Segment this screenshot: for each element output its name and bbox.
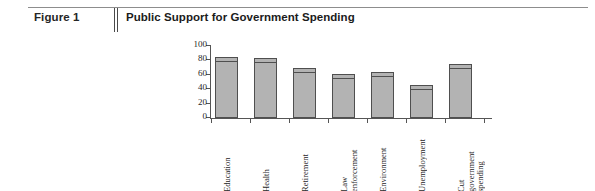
bar-cap [293,72,316,73]
x-tick-mark [367,119,368,123]
y-tick-label: 0 [203,111,208,121]
figure-title: Public Support for Government Spending [126,11,355,23]
x-axis-line [210,118,492,119]
bar-cap [410,89,433,90]
x-tick-mark [484,119,485,123]
y-tick-label: 60 [198,68,207,78]
x-tick-mark [328,119,329,123]
bar-cap [215,61,238,62]
x-tick-mark [250,119,251,123]
bar [254,58,277,118]
bar [410,85,433,118]
bar [371,72,394,118]
x-tick-mark [445,119,446,123]
bar-chart: 020406080100 EducationHealthRetirementLa… [182,42,502,188]
x-axis-label: Cut government spending [457,126,527,191]
y-tick-label: 100 [194,39,208,49]
figure-number: Figure 1 [34,11,80,23]
bar-cap [371,76,394,77]
bar [215,57,238,118]
divider-line-1 [114,8,115,32]
header-rule [28,7,588,8]
y-tick-label: 80 [198,53,207,63]
bar [332,74,355,118]
header-divider [114,8,119,32]
figure-header: Figure 1 Public Support for Government S… [28,7,588,33]
x-tick-mark [289,119,290,123]
y-tick-label: 40 [198,82,207,92]
bar [293,68,316,118]
x-tick-mark [211,119,212,123]
bar-cap [332,78,355,79]
y-tick-label: 20 [198,97,207,107]
x-tick-mark [406,119,407,123]
bar-cap [449,68,472,69]
divider-line-2 [117,8,118,32]
bar-cap [254,62,277,63]
bar [449,64,472,118]
